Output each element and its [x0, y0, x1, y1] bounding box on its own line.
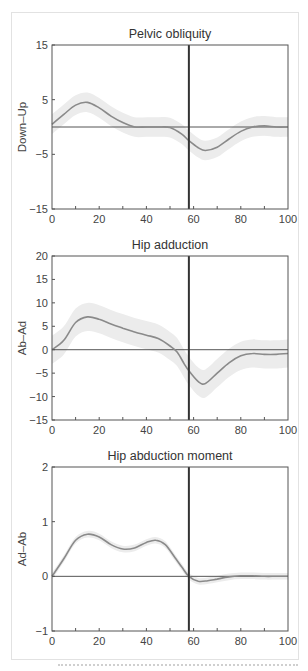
x-tick-label: 20: [93, 424, 105, 436]
y-tick-label: 1: [42, 516, 48, 528]
y-tick-label: −15: [29, 203, 48, 215]
y-tick-label: 15: [36, 39, 48, 51]
y-tick-label: −10: [29, 391, 48, 403]
x-tick-label: 80: [235, 213, 247, 225]
y-tick-label: −15: [29, 414, 48, 426]
chart-hip-adduction: Hip adduction Ab–Ad 02040608010020151050…: [16, 238, 297, 436]
y-tick-label: 0: [42, 344, 48, 356]
x-tick-label: 60: [187, 424, 199, 436]
y-axis-label: Ab–Ad: [16, 321, 28, 356]
chart-title: Pelvic obliquity: [129, 27, 212, 41]
x-tick-label: 0: [49, 424, 55, 436]
chart-title: Hip abduction moment: [107, 449, 233, 463]
y-tick-label: −5: [35, 367, 48, 379]
x-tick-label: 20: [93, 635, 105, 647]
x-tick-label: 60: [187, 635, 199, 647]
x-tick-label: 100: [279, 424, 297, 436]
x-tick-label: 40: [140, 424, 152, 436]
figure-canvas: Pelvic obliquity Down–Up 020406080100155…: [0, 0, 308, 671]
x-tick-label: 80: [235, 424, 247, 436]
chart-title: Hip adduction: [132, 238, 208, 252]
y-tick-label: 15: [36, 273, 48, 285]
x-tick-label: 100: [279, 635, 297, 647]
y-tick-label: −5: [35, 148, 48, 160]
x-tick-label: 100: [279, 213, 297, 225]
y-tick-label: 10: [36, 297, 48, 309]
x-tick-label: 20: [93, 213, 105, 225]
x-tick-label: 60: [187, 213, 199, 225]
y-tick-label: 0: [42, 570, 48, 582]
x-tick-label: 0: [49, 213, 55, 225]
y-tick-label: −1: [35, 625, 48, 637]
y-axis-label: Down–Up: [16, 102, 28, 153]
chart-pelvic-obliquity: Pelvic obliquity Down–Up 020406080100155…: [16, 27, 297, 225]
x-tick-label: 40: [140, 635, 152, 647]
cropped-caption: [58, 664, 298, 670]
y-tick-label: 20: [36, 250, 48, 262]
y-tick-label: 5: [42, 320, 48, 332]
y-axis-label: Ad–Ab: [16, 532, 28, 567]
chart-hip-abduction-moment: Hip abduction moment Ad–Ab 0204060801002…: [16, 449, 297, 647]
y-tick-label: 2: [42, 461, 48, 473]
x-tick-label: 80: [235, 635, 247, 647]
y-tick-label: 5: [42, 94, 48, 106]
x-tick-label: 40: [140, 213, 152, 225]
x-tick-label: 0: [49, 635, 55, 647]
